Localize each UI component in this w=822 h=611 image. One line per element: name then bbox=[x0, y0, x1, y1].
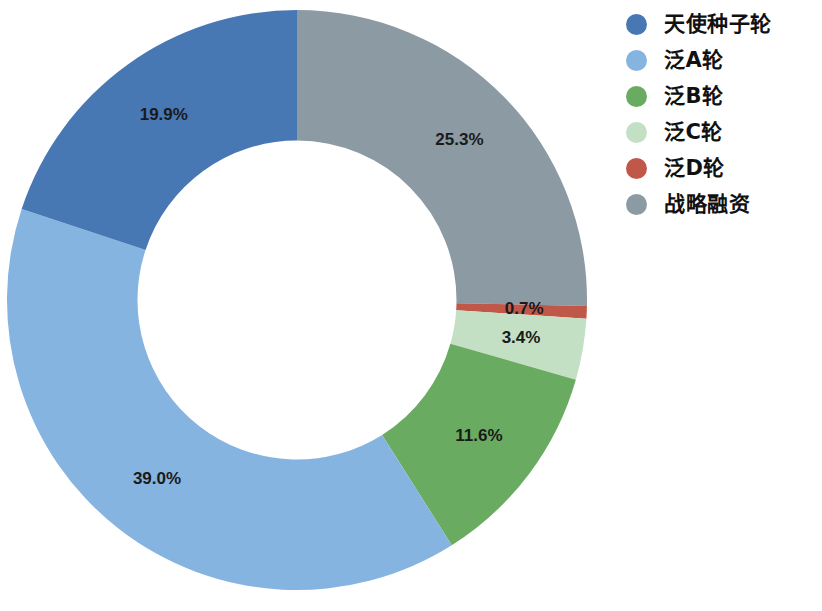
donut-slice[interactable] bbox=[7, 209, 452, 590]
legend-item-strategic[interactable]: 战略融资 bbox=[626, 186, 822, 222]
donut-slice-value-label: 11.6% bbox=[455, 426, 502, 445]
legend-item-pan-b[interactable]: 泛B轮 bbox=[626, 78, 822, 114]
legend-label-pan-b: 泛B轮 bbox=[664, 86, 724, 107]
legend-label-pan-a: 泛A轮 bbox=[664, 50, 724, 71]
legend-item-pan-a[interactable]: 泛A轮 bbox=[626, 42, 822, 78]
legend-label-pan-d: 泛D轮 bbox=[664, 158, 725, 179]
donut-chart-figure: 25.3%0.7%3.4%11.6%39.0%19.9% 天使种子轮 泛A轮 泛… bbox=[0, 0, 822, 611]
donut-slice-value-label: 19.9% bbox=[140, 105, 188, 124]
donut-slice[interactable] bbox=[22, 10, 297, 250]
legend-label-strategic: 战略融资 bbox=[664, 194, 750, 215]
legend-swatch-icon-pan-b bbox=[626, 86, 647, 107]
legend-swatch-icon-angel-seed bbox=[626, 14, 647, 35]
donut-slice-group bbox=[7, 10, 587, 590]
legend-swatch-icon-pan-d bbox=[626, 158, 647, 179]
donut-chart-plot-area: 25.3%0.7%3.4%11.6%39.0%19.9% bbox=[0, 0, 610, 611]
donut-chart-svg: 25.3%0.7%3.4%11.6%39.0%19.9% bbox=[0, 0, 610, 611]
legend-swatch-icon-strategic bbox=[626, 194, 647, 215]
chart-legend: 天使种子轮 泛A轮 泛B轮 泛C轮 泛D轮 战略融资 bbox=[626, 6, 822, 222]
legend-label-pan-c: 泛C轮 bbox=[664, 122, 723, 143]
donut-slice-value-label: 39.0% bbox=[133, 469, 181, 488]
legend-swatch-icon-pan-a bbox=[626, 50, 647, 71]
donut-slice-value-label: 25.3% bbox=[435, 130, 483, 149]
donut-slice-value-label: 0.7% bbox=[505, 299, 544, 318]
legend-item-angel-seed[interactable]: 天使种子轮 bbox=[626, 6, 822, 42]
donut-slice-value-label: 3.4% bbox=[502, 328, 541, 347]
legend-swatch-icon-pan-c bbox=[626, 122, 647, 143]
donut-slice[interactable] bbox=[297, 10, 587, 306]
legend-item-pan-c[interactable]: 泛C轮 bbox=[626, 114, 822, 150]
legend-item-pan-d[interactable]: 泛D轮 bbox=[626, 150, 822, 186]
legend-label-angel-seed: 天使种子轮 bbox=[664, 14, 772, 35]
